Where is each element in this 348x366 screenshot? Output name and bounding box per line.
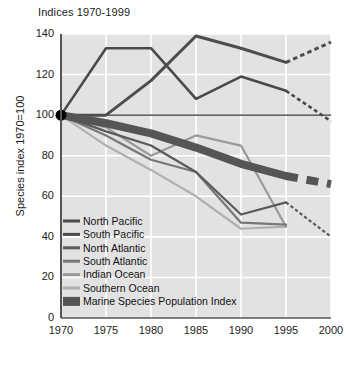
legend-label: North Atlantic	[83, 242, 145, 254]
x-tick-label: 1975	[84, 324, 128, 336]
y-tick-label: 80	[20, 149, 54, 161]
legend-item[interactable]: Marine Species Population Index	[63, 295, 237, 307]
figure-bottom-margin	[0, 352, 343, 366]
y-tick-label: 40	[20, 230, 54, 242]
x-tick-label: 1970	[39, 324, 83, 336]
legend-label: North Pacific	[83, 215, 143, 227]
x-tick-label: 2000	[309, 324, 348, 336]
legend-label: South Pacific	[83, 228, 144, 240]
y-tick-label: 0	[20, 311, 54, 323]
y-tick-label: 20	[20, 270, 54, 282]
legend-label: Southern Ocean	[83, 282, 160, 294]
legend-label: Marine Species Population Index	[83, 295, 237, 307]
legend-swatch	[63, 297, 80, 306]
y-tick-label: 120	[20, 68, 54, 80]
x-tick-label: 1995	[264, 324, 308, 336]
legend-label: South Atlantic	[83, 255, 147, 267]
x-tick-label: 1985	[174, 324, 218, 336]
x-tick-label: 1980	[129, 324, 173, 336]
legend-label: Indian Ocean	[83, 268, 146, 280]
y-tick-label: 140	[20, 27, 54, 39]
y-tick-label: 100	[20, 108, 54, 120]
x-tick-label: 1990	[219, 324, 263, 336]
y-tick-label: 60	[20, 189, 54, 201]
chart-title: Indices 1970-1999	[38, 6, 130, 18]
